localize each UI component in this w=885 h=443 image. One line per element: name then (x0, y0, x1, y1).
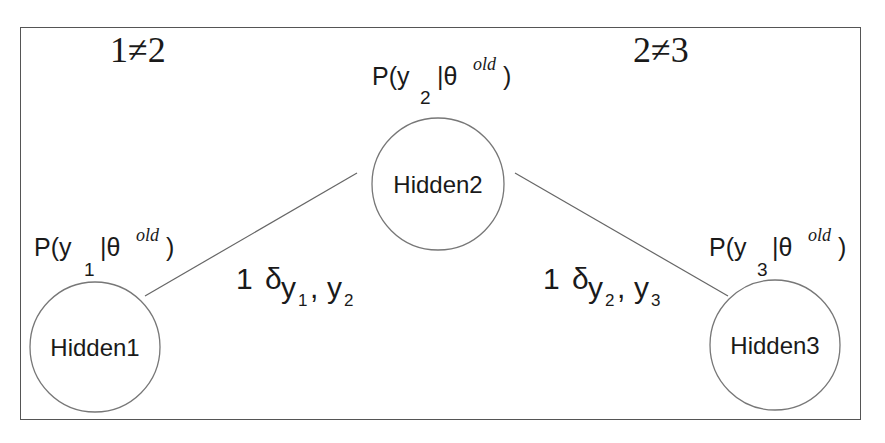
prob-mid: |θ (100, 233, 120, 261)
delta-symbol: δ (572, 262, 589, 295)
prob-prefix: P(y (709, 233, 747, 261)
prob-prefix: P(y (372, 62, 410, 90)
prob-mid: |θ (437, 62, 457, 90)
node-hidden2: Hidden2 (372, 118, 504, 250)
prob-sub: 2 (420, 87, 431, 108)
edge-coef: 1 (543, 262, 560, 295)
prob-sub: 3 (757, 259, 768, 280)
node-label: Hidden3 (730, 332, 819, 359)
edge-var-b: y (327, 271, 342, 304)
prob-suffix: ) (503, 62, 511, 90)
inequality-label-2-3: 2≠3 (633, 30, 689, 70)
prob-sub: 1 (84, 259, 95, 280)
prob-label-hidden3: P(y 3 |θ old ) (709, 225, 846, 280)
prob-mid: |θ (772, 233, 792, 261)
edge-coef: 1 (236, 262, 253, 295)
edge-label-hidden1-hidden2: 1 δ y 1 , y 2 (236, 262, 353, 310)
edge-separator: , (617, 271, 625, 304)
edge-var-b: y (634, 271, 649, 304)
prob-suffix: ) (838, 233, 846, 261)
edge-sub-b: 3 (651, 291, 660, 310)
prob-sup: old (808, 225, 832, 245)
prob-sup: old (136, 225, 160, 245)
edge-var-a: y (588, 271, 603, 304)
prob-sup: old (473, 54, 497, 74)
prob-prefix: P(y (34, 233, 72, 261)
edge-sub-b: 2 (344, 291, 353, 310)
edge-separator: , (310, 271, 318, 304)
node-hidden1: Hidden1 (30, 282, 160, 412)
edge-label-hidden2-hidden3: 1 δ y 2 , y 3 (543, 262, 660, 310)
delta-symbol: δ (265, 262, 282, 295)
inequality-label-1-2: 1≠2 (110, 30, 166, 70)
prob-label-hidden1: P(y 1 |θ old ) (34, 225, 174, 280)
prob-suffix: ) (166, 233, 174, 261)
node-hidden3: Hidden3 (710, 280, 840, 410)
edge-sub-a: 2 (605, 291, 614, 310)
node-label: Hidden2 (393, 171, 482, 198)
edge-sub-a: 1 (298, 291, 307, 310)
edge-var-a: y (281, 271, 296, 304)
prob-label-hidden2: P(y 2 |θ old ) (372, 54, 511, 108)
node-label: Hidden1 (50, 334, 139, 361)
factor-graph-diagram: 1≠2 2≠3 Hidden2 P(y 2 |θ old ) Hidden1 P… (0, 0, 885, 443)
